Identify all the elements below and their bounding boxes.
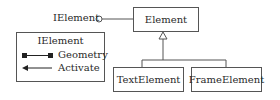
class-element-label: Element [145, 14, 187, 25]
legend-box: IElement Geometry Activate [16, 32, 105, 82]
legend-item-geometry: Geometry [58, 49, 108, 60]
legend-item-activate: Activate [58, 62, 100, 73]
interface-label: IElement [53, 12, 99, 23]
legend-title: IElement [17, 35, 104, 46]
class-frame-element[interactable]: FrameElement [191, 67, 262, 92]
class-text-element[interactable]: TextElement [113, 67, 184, 92]
class-text-element-label: TextElement [117, 74, 181, 85]
class-frame-element-label: FrameElement [189, 74, 264, 85]
class-element[interactable]: Element [133, 7, 199, 32]
inheritance-triangle-icon [159, 32, 167, 39]
